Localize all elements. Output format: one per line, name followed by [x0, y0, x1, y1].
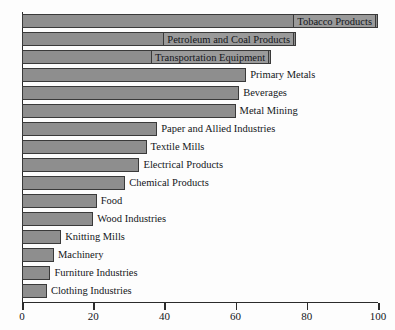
x-tick-label: 60 [230, 310, 241, 322]
bar-label: Petroleum and Coal Products [163, 32, 294, 46]
bar [22, 194, 97, 208]
bar-row: Clothing Industries [22, 284, 378, 298]
bar-label: Tobacco Products [293, 14, 376, 28]
bar [22, 248, 54, 262]
bar [22, 176, 125, 190]
x-tick-label: 100 [370, 310, 387, 322]
bar-label: Clothing Industries [47, 283, 132, 298]
bar [22, 68, 246, 82]
bar-label: Machinery [54, 247, 103, 262]
x-tick-label: 80 [301, 310, 312, 322]
x-tick-mark [378, 303, 380, 310]
bar [22, 158, 139, 172]
x-tick-mark [22, 303, 24, 310]
chart-title [0, 0, 395, 4]
bar-row: Paper and Allied Industries [22, 122, 378, 136]
x-tick-label: 0 [19, 310, 25, 322]
x-tick-mark [236, 303, 238, 310]
bar [22, 284, 47, 298]
bar-row: Knitting Mills [22, 230, 378, 244]
x-tick-mark [93, 303, 95, 310]
bar-row: Wood Industries [22, 212, 378, 226]
bar-label: Beverages [239, 85, 287, 100]
x-axis-tick-labels: 020406080100 [0, 310, 395, 328]
bar-label: Food [97, 193, 123, 208]
bar-label: Furniture Industries [50, 265, 137, 280]
bar-row: Food [22, 194, 378, 208]
bar-label: Chemical Products [125, 175, 209, 190]
x-tick-label: 20 [88, 310, 99, 322]
bar-row: Electrical Products [22, 158, 378, 172]
bar-row: Furniture Industries [22, 266, 378, 280]
bar-row: Beverages [22, 86, 378, 100]
bar [22, 230, 61, 244]
bar-row: Petroleum and Coal Products [22, 32, 378, 46]
bar-row: Chemical Products [22, 176, 378, 190]
bar [22, 122, 157, 136]
x-tick-mark [307, 303, 309, 310]
bar-label: Electrical Products [139, 157, 223, 172]
bar [22, 140, 147, 154]
x-tick-label: 40 [159, 310, 170, 322]
bar-label: Knitting Mills [61, 229, 125, 244]
bar-label: Textile Mills [147, 139, 205, 154]
bar-label: Metal Mining [236, 103, 298, 118]
bar-label: Wood Industries [93, 211, 166, 226]
bar-label: Paper and Allied Industries [157, 121, 275, 136]
bar-row: Metal Mining [22, 104, 378, 118]
bar-label: Primary Metals [246, 67, 315, 82]
bar-row: Primary Metals [22, 68, 378, 82]
bar [22, 212, 93, 226]
bar-row: Textile Mills [22, 140, 378, 154]
bar-row: Tobacco Products [22, 14, 378, 28]
bar-chart: Tobacco ProductsPetroleum and Coal Produ… [0, 0, 395, 330]
bar [22, 86, 239, 100]
bar [22, 266, 50, 280]
bars-layer: Tobacco ProductsPetroleum and Coal Produ… [22, 12, 378, 301]
x-tick-mark [164, 303, 166, 310]
bar-row: Machinery [22, 248, 378, 262]
bar-label: Transportation Equipment [151, 50, 269, 64]
bar-row: Transportation Equipment [22, 50, 378, 64]
bar [22, 104, 236, 118]
